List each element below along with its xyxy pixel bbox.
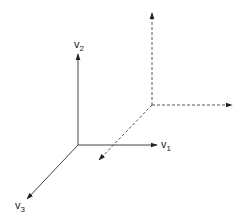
solid-axes: [27, 54, 157, 199]
v3-label: v3: [15, 199, 26, 214]
v3-axis: [27, 145, 78, 199]
dashed-z-axis: [99, 105, 152, 160]
v2-label: v2: [74, 38, 85, 53]
axes-diagram: v2 v1 v3: [0, 0, 246, 223]
v1-label: v1: [161, 138, 172, 153]
